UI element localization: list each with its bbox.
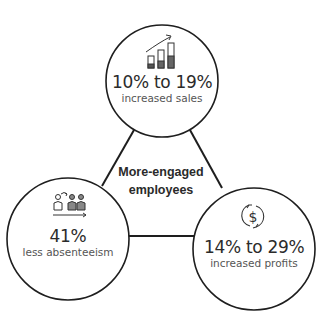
profits-value: 14% to 29% (204, 237, 304, 257)
absenteeism-node: 41% less absenteeism (18, 226, 118, 259)
sales-label: increased sales (112, 92, 212, 105)
center-label-line1: More-engaged (105, 163, 217, 181)
profits-node: 14% to 29% increased profits (204, 237, 304, 270)
absenteeism-value: 41% (18, 226, 118, 246)
center-label: More-engaged employees (105, 163, 217, 199)
center-label-line2: employees (105, 181, 217, 199)
profits-label: increased profits (204, 257, 304, 270)
svg-text:$: $ (249, 209, 258, 225)
sales-node: 10% to 19% increased sales (112, 72, 212, 105)
sales-value: 10% to 19% (112, 72, 212, 92)
absenteeism-label: less absenteeism (18, 246, 118, 259)
